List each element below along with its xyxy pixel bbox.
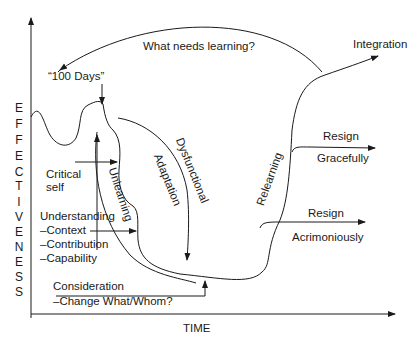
resign-gracefully-line2: Gracefully	[317, 152, 369, 165]
resign-acrimoniously-line1: Resign	[308, 207, 344, 220]
understanding-title: Understanding	[40, 210, 115, 223]
understanding-item: –Context	[40, 224, 86, 237]
y-letter: E	[13, 225, 25, 239]
y-letter: F	[13, 133, 25, 147]
resign-acrimoniously-line2: Acrimoniously	[292, 231, 364, 244]
y-letter: V	[13, 210, 25, 224]
consideration-item: –Change What/Whom?	[53, 295, 173, 308]
start-label: “100 Days”	[48, 70, 104, 83]
resign-gracefully-line1: Resign	[323, 130, 359, 143]
y-letter: S	[13, 285, 25, 299]
integration-label: Integration	[353, 38, 407, 51]
y-letter: N	[13, 240, 25, 254]
y-letter: T	[13, 179, 25, 193]
y-letter: E	[13, 149, 25, 163]
y-letter: E	[13, 101, 25, 115]
resign-acrimoniously-branch	[260, 222, 365, 228]
y-letter: S	[13, 270, 25, 284]
y-letter: E	[13, 255, 25, 269]
y-letter: F	[13, 117, 25, 131]
y-letter: C	[13, 165, 25, 179]
critical-self-line2: self	[46, 181, 64, 194]
understanding-item: –Capability	[40, 252, 97, 265]
top-arc-label: What needs learning?	[143, 40, 255, 53]
x-axis-label: TIME	[183, 322, 210, 335]
critical-self-line1: Critical	[46, 168, 81, 181]
understanding-item: –Contribution	[40, 238, 108, 251]
consideration-title: Consideration	[53, 280, 124, 293]
y-letter: I	[13, 195, 25, 209]
